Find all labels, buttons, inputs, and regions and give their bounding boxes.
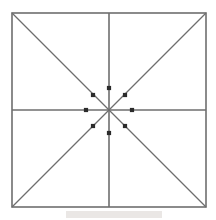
scan-smudge-group bbox=[66, 211, 162, 218]
point-southwest bbox=[91, 124, 95, 128]
point-northwest bbox=[91, 93, 95, 97]
scan-smudge bbox=[66, 211, 162, 218]
point-south bbox=[107, 131, 111, 135]
point-east bbox=[130, 108, 134, 112]
point-southeast bbox=[123, 124, 127, 128]
geometric-diagram bbox=[0, 0, 216, 220]
point-north bbox=[107, 86, 111, 90]
point-west bbox=[84, 108, 88, 112]
figure-canvas bbox=[0, 0, 216, 220]
point-northeast bbox=[123, 93, 127, 97]
